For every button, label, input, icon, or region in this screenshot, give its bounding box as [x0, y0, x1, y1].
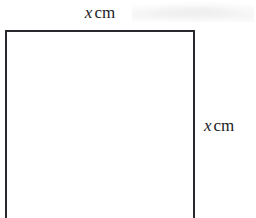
- top-side-variable: x: [85, 3, 93, 22]
- right-side-label: xcm: [204, 117, 234, 134]
- right-side-variable: x: [204, 116, 212, 135]
- square-outline: [5, 30, 195, 218]
- right-side-unit: cm: [214, 116, 235, 135]
- top-side-unit: cm: [94, 3, 115, 22]
- geometry-figure: xcm xcm: [0, 0, 256, 218]
- top-side-label: xcm: [0, 4, 200, 21]
